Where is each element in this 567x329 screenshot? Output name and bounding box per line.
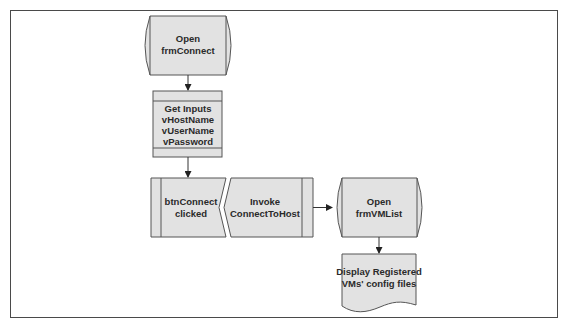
flowchart-canvas: Open frmConnect Get Inputs vHostName vUs… — [0, 0, 567, 329]
node-label-line: vUserName — [162, 125, 214, 136]
node-open-frmvmlist: Open frmVMList — [337, 178, 422, 237]
node-btnconnect-clicked: btnConnect clicked — [151, 178, 226, 237]
node-invoke-connecttohost: Invoke ConnectToHost — [224, 178, 313, 237]
node-open-frmconnect: Open frmConnect — [145, 16, 231, 75]
node-label-line: Invoke — [250, 196, 280, 207]
node-display-registered: Display Registered VMs' config files — [336, 254, 422, 312]
node-label-line: Open — [176, 33, 200, 44]
node-label-line: Open — [367, 196, 391, 207]
node-get-inputs: Get Inputs vHostName vUserName vPassword — [153, 91, 222, 157]
node-label-line: frmConnect — [161, 45, 215, 56]
node-label-line: vHostName — [162, 114, 214, 125]
node-label-line: ConnectToHost — [230, 208, 301, 219]
node-label-line: clicked — [175, 208, 207, 219]
node-label-line: Get Inputs — [165, 103, 212, 114]
node-label-line: Display Registered — [336, 266, 422, 277]
node-label-line: btnConnect — [165, 196, 219, 207]
node-label-line: VMs' config files — [342, 278, 417, 289]
node-label-line: frmVMList — [356, 208, 403, 219]
node-label-line: vPassword — [163, 136, 213, 147]
